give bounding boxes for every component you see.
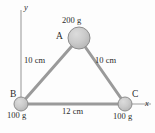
mass-circle-c (118, 97, 132, 111)
mass-circle-a (68, 27, 90, 49)
side-length-label-ac: 10 cm (95, 56, 116, 65)
vertex-label-c: C (132, 90, 138, 100)
side-ac (79, 38, 125, 104)
mass-label-c: 100 g (113, 112, 132, 121)
physics-diagram: 200 g A 10 cm 10 cm B 100 g 12 cm C 100 … (0, 0, 155, 133)
mass-label-b: 100 g (7, 111, 26, 120)
mass-label-a: 200 g (62, 16, 81, 25)
vertex-label-a: A (56, 32, 63, 42)
side-length-label-bc: 12 cm (62, 107, 83, 116)
x-axis-label: x (145, 99, 149, 108)
y-axis-label: y (24, 3, 28, 12)
vertex-label-b: B (10, 90, 16, 100)
side-length-label-ab: 10 cm (24, 56, 45, 65)
side-ab (21, 38, 79, 104)
